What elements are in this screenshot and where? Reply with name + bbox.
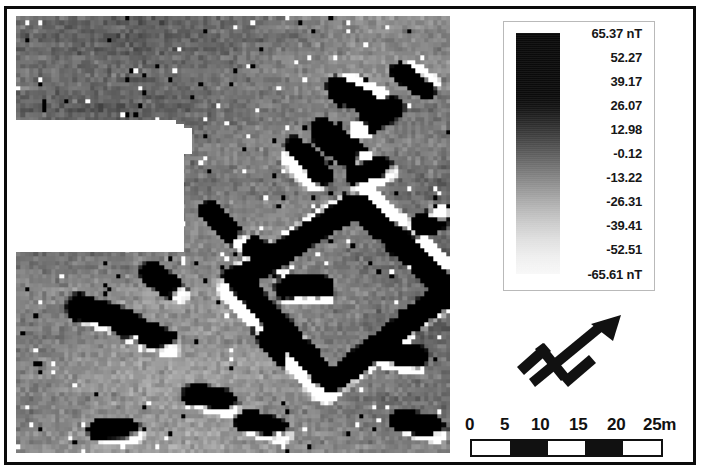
scale-bar-track: [470, 439, 663, 457]
legend-panel: 65.37 nT 52.27 39.17 26.07 12.98 -0.12 -…: [503, 21, 655, 291]
scale-segment-3: [585, 441, 623, 455]
legend-label-9: -52.51: [606, 242, 642, 257]
magnetometry-greyscale-image[interactable]: [16, 16, 450, 453]
scale-tick-labels: 0 5 10 15 20 25m: [465, 415, 675, 437]
scale-tick-2: 10: [531, 415, 549, 435]
scale-tick-3: 15: [569, 415, 587, 435]
scale-tick-0: 0: [465, 415, 474, 435]
legend-label-10: -65.61 nT: [587, 267, 642, 282]
legend-colour-ramp: [516, 33, 560, 274]
north-arrow-icon: [499, 307, 629, 407]
legend-label-4: 12.98: [610, 122, 642, 137]
scale-tick-4: 20: [607, 415, 625, 435]
legend-label-7: -26.31: [606, 194, 642, 209]
figure-frame: 65.37 nT 52.27 39.17 26.07 12.98 -0.12 -…: [4, 6, 696, 465]
legend-label-0: 65.37 nT: [592, 26, 642, 41]
scale-segment-2: [548, 441, 586, 455]
scale-segment-1: [510, 441, 548, 455]
scale-bar: 0 5 10 15 20 25m: [465, 415, 675, 463]
scale-tick-1: 5: [500, 415, 509, 435]
legend-label-list: 65.37 nT 52.27 39.17 26.07 12.98 -0.12 -…: [564, 26, 646, 288]
legend-label-1: 52.27: [610, 50, 642, 65]
scale-segment-0: [472, 441, 510, 455]
legend-label-3: 26.07: [610, 98, 642, 113]
scale-tick-5: 25m: [643, 415, 676, 435]
magnetometry-raster[interactable]: [16, 16, 450, 453]
scale-segment-4: [623, 441, 661, 455]
legend-label-2: 39.17: [610, 74, 642, 89]
north-arrow: [499, 307, 629, 407]
legend-label-8: -39.41: [606, 218, 642, 233]
legend-label-5: -0.12: [613, 146, 642, 161]
legend-label-6: -13.22: [606, 170, 642, 185]
